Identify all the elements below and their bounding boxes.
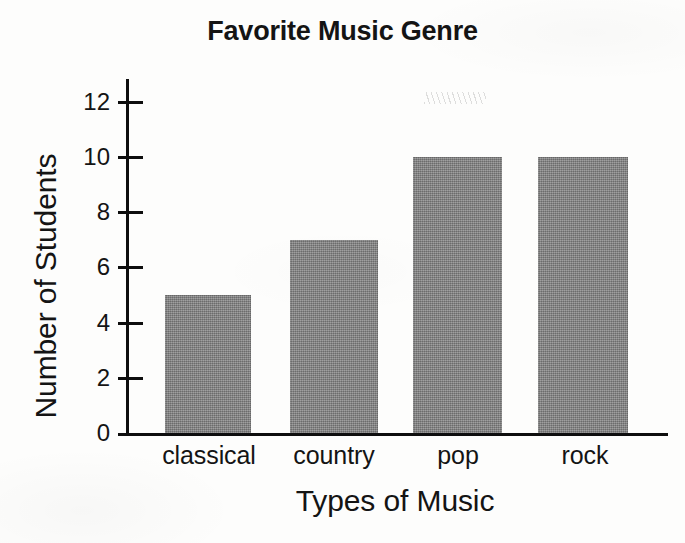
bar-classical <box>165 295 251 433</box>
y-axis-tick-label-text: 4 <box>76 311 110 335</box>
y-axis-tick <box>118 266 143 269</box>
y-axis-tick-label-text: 6 <box>76 255 110 279</box>
plot-area: 121086420 classicalcountrypoprock <box>0 0 685 543</box>
bar-pop <box>413 157 502 433</box>
x-axis-title: Types of Music <box>105 484 685 518</box>
x-axis-tick-label-pop: pop <box>398 441 518 470</box>
y-axis-line <box>126 79 129 436</box>
x-axis-tick-label-classical: classical <box>140 441 278 470</box>
x-axis-tick-label-country: country <box>268 441 400 470</box>
y-axis-tick-label: 6 <box>70 255 110 279</box>
y-axis-tick-label: 2 <box>70 366 110 390</box>
y-axis-tick-label: 0 <box>70 421 110 445</box>
y-axis-tick-label-text: 12 <box>76 90 110 114</box>
y-axis-tick-label-text: 0 <box>76 421 110 445</box>
scan-artifact <box>424 92 486 104</box>
y-axis-tick-label-text: 10 <box>76 145 110 169</box>
x-axis-tick-label-rock: rock <box>520 441 650 470</box>
y-axis-title: Number of Students <box>18 86 74 486</box>
y-axis-tick <box>118 101 143 104</box>
bar-rock <box>538 157 628 433</box>
bar-country <box>290 240 378 433</box>
y-axis-tick <box>118 156 143 159</box>
y-axis-tick <box>118 377 143 380</box>
y-axis-tick-label: 10 <box>70 145 110 169</box>
y-axis-tick-label: 12 <box>70 90 110 114</box>
y-axis-tick-label-text: 2 <box>76 366 110 390</box>
x-axis-line <box>118 433 668 436</box>
y-axis-tick-label-text: 8 <box>76 200 110 224</box>
y-axis-tick-label: 4 <box>70 311 110 335</box>
chart-page: Favorite Music Genre 121086420 classical… <box>0 0 685 543</box>
y-axis-tick <box>118 322 143 325</box>
y-axis-tick-label: 8 <box>70 200 110 224</box>
y-axis-tick <box>118 211 143 214</box>
